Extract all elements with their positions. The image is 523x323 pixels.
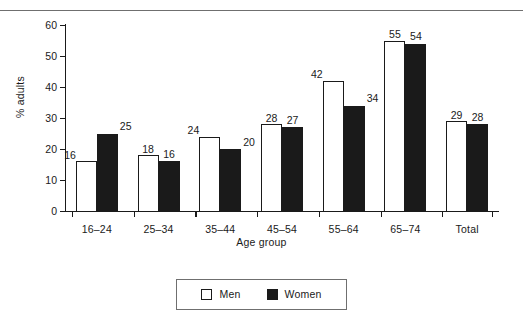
bar-women[interactable]: 25 bbox=[97, 134, 118, 212]
y-axis-tick-label: 30 bbox=[45, 113, 57, 124]
x-axis-category-label: 25–34 bbox=[143, 223, 173, 235]
open-square-swatch bbox=[201, 289, 212, 300]
y-axis-tick-label: 60 bbox=[45, 20, 57, 31]
x-axis-category-label: 16–24 bbox=[82, 223, 112, 235]
y-axis-tick-mark bbox=[60, 211, 66, 212]
bar-group: 555465–74 bbox=[375, 25, 437, 211]
bar-group: 242035–44 bbox=[189, 25, 251, 211]
x-axis-category-label: 55–64 bbox=[329, 223, 359, 235]
bar-group: 2928Total bbox=[436, 25, 498, 211]
y-axis-tick-label: 10 bbox=[45, 175, 57, 186]
bar-men[interactable]: 24 bbox=[199, 137, 220, 211]
bar-value-label: 29 bbox=[451, 110, 463, 121]
bar-women[interactable]: 27 bbox=[282, 127, 303, 211]
bar-value-label: 24 bbox=[188, 125, 200, 136]
y-axis-tick-label: 50 bbox=[45, 51, 57, 62]
x-axis-category-label: 65–74 bbox=[390, 223, 420, 235]
y-axis-tick-label: 0 bbox=[51, 206, 57, 217]
y-axis-tick-label: 20 bbox=[45, 144, 57, 155]
x-axis-tick-mark bbox=[492, 211, 493, 217]
bar-value-label: 54 bbox=[410, 31, 422, 42]
x-axis-tick-mark bbox=[72, 211, 73, 217]
x-axis-tick-mark bbox=[134, 211, 135, 217]
legend-label: Men bbox=[219, 289, 240, 300]
bar-value-label: 16 bbox=[64, 150, 76, 161]
bar-value-label: 18 bbox=[142, 144, 154, 155]
bar-value-label: 16 bbox=[163, 149, 175, 160]
x-axis-tick-mark bbox=[195, 211, 196, 217]
legend-item-women[interactable]: Women bbox=[267, 289, 322, 300]
bar-value-label: 28 bbox=[266, 113, 278, 124]
x-axis-tick-mark bbox=[381, 211, 382, 217]
bar-men[interactable]: 55 bbox=[384, 41, 405, 212]
plot-area: 0102030405060 162516–24181625–34242035–4… bbox=[66, 25, 498, 211]
bar-value-label: 28 bbox=[472, 112, 484, 123]
legend-label: Women bbox=[285, 289, 322, 300]
legend-item-men[interactable]: Men bbox=[201, 289, 240, 300]
bar-group: 282745–54 bbox=[251, 25, 313, 211]
chart-legend: MenWomen bbox=[176, 279, 347, 310]
bar-men[interactable]: 28 bbox=[261, 124, 282, 211]
bar-value-label: 27 bbox=[287, 115, 299, 126]
bar-women[interactable]: 16 bbox=[159, 161, 180, 211]
bar-women[interactable]: 20 bbox=[220, 149, 241, 211]
bar-men[interactable]: 42 bbox=[323, 81, 344, 211]
bar-group: 162516–24 bbox=[66, 25, 128, 211]
bar-women[interactable]: 54 bbox=[405, 44, 426, 211]
x-axis-category-label: Total bbox=[456, 223, 479, 235]
x-axis-category-label: 45–54 bbox=[267, 223, 297, 235]
bar-men[interactable]: 16 bbox=[76, 161, 97, 211]
bar-value-label: 42 bbox=[311, 69, 323, 80]
bar-women[interactable]: 34 bbox=[344, 106, 365, 211]
bar-women[interactable]: 28 bbox=[467, 124, 488, 211]
y-axis-tick-label: 40 bbox=[45, 82, 57, 93]
bar-men[interactable]: 18 bbox=[138, 155, 159, 211]
bar-group: 423455–64 bbox=[313, 25, 375, 211]
x-axis-tick-mark bbox=[442, 211, 443, 217]
x-axis-tick-mark bbox=[319, 211, 320, 217]
bar-men[interactable]: 29 bbox=[446, 121, 467, 211]
x-axis-category-label: 35–44 bbox=[205, 223, 235, 235]
bar-group: 181625–34 bbox=[128, 25, 190, 211]
bar-value-label: 55 bbox=[389, 29, 401, 40]
x-axis-tick-mark bbox=[257, 211, 258, 217]
filled-square-swatch bbox=[267, 289, 278, 300]
y-axis-title: % adults bbox=[14, 76, 26, 118]
top-divider-rule bbox=[0, 10, 523, 11]
x-axis-title: Age group bbox=[0, 236, 523, 248]
